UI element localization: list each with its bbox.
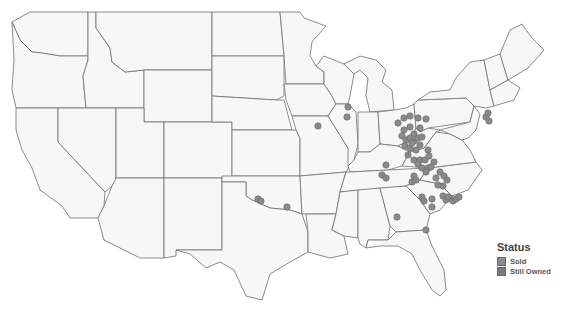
- location-marker: [421, 198, 427, 204]
- location-marker: [422, 157, 428, 163]
- legend-item-sold: Sold: [497, 256, 551, 266]
- location-marker: [344, 114, 350, 120]
- location-marker: [315, 123, 321, 129]
- location-marker: [444, 177, 450, 183]
- map-legend: Status Sold Still Owned: [497, 241, 551, 276]
- location-marker: [423, 227, 429, 233]
- location-marker: [419, 134, 425, 140]
- location-marker: [429, 204, 435, 210]
- location-marker: [456, 194, 462, 200]
- location-marker: [383, 175, 389, 181]
- still-owned-swatch-icon: [497, 267, 506, 276]
- location-marker: [407, 113, 413, 119]
- location-marker: [401, 115, 407, 121]
- location-marker: [429, 196, 435, 202]
- location-marker: [423, 116, 429, 122]
- location-marker: [415, 115, 421, 121]
- legend-label-sold: Sold: [510, 257, 526, 266]
- legend-label-still-owned: Still Owned: [510, 267, 551, 276]
- location-marker: [485, 110, 491, 116]
- location-marker: [407, 124, 413, 130]
- location-marker: [409, 140, 415, 146]
- location-marker: [425, 147, 431, 153]
- location-marker: [417, 125, 423, 131]
- sold-swatch-icon: [497, 257, 506, 266]
- state-boundaries: [12, 12, 544, 300]
- location-marker: [413, 177, 419, 183]
- legend-item-still-owned: Still Owned: [497, 266, 551, 276]
- location-marker: [383, 162, 389, 168]
- location-marker: [258, 198, 264, 204]
- location-marker: [284, 204, 290, 210]
- location-marker: [417, 142, 423, 148]
- location-marker: [405, 152, 411, 158]
- location-marker: [395, 120, 401, 126]
- location-marker: [435, 182, 441, 188]
- location-marker: [431, 159, 437, 165]
- location-marker: [394, 214, 400, 220]
- location-marker: [345, 104, 351, 110]
- location-marker: [433, 175, 439, 181]
- location-marker: [423, 169, 429, 175]
- location-marker: [401, 127, 407, 133]
- location-marker: [445, 194, 451, 200]
- legend-title: Status: [497, 241, 551, 253]
- location-marker: [486, 118, 492, 124]
